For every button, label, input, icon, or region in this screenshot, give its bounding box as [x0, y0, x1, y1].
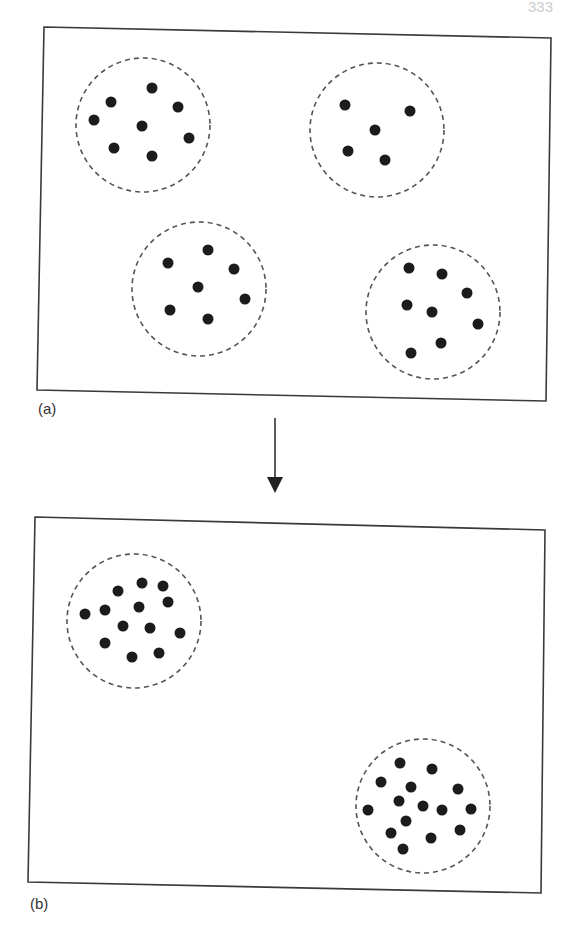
cluster [67, 554, 201, 688]
data-point [147, 151, 158, 162]
cluster [310, 63, 444, 197]
data-point [154, 648, 165, 659]
data-point [466, 804, 477, 815]
data-point [363, 805, 374, 816]
data-point [89, 115, 100, 126]
data-point [173, 102, 184, 113]
data-point [113, 586, 124, 597]
data-point [436, 338, 447, 349]
data-point [437, 805, 448, 816]
panel-b-clusters [67, 554, 490, 873]
cluster [132, 222, 266, 356]
data-point [165, 305, 176, 316]
data-point [380, 155, 391, 166]
data-point [406, 782, 417, 793]
data-point [184, 133, 195, 144]
cluster [356, 739, 490, 873]
data-point [395, 758, 406, 769]
data-point [203, 245, 214, 256]
panel-a-label: (a) [38, 400, 56, 417]
panel-a-frame [37, 27, 551, 401]
cluster-boundary [67, 554, 201, 688]
data-point [163, 597, 174, 608]
data-point [401, 816, 412, 827]
data-point [193, 282, 204, 293]
data-point [394, 796, 405, 807]
data-point [402, 300, 413, 311]
data-point [427, 307, 438, 318]
data-point [398, 844, 409, 855]
cluster-merge-diagram: 333 (a) (b) [0, 0, 575, 937]
data-point [229, 264, 240, 275]
data-point [437, 269, 448, 280]
panel-a-clusters [76, 58, 500, 379]
data-point [127, 652, 138, 663]
page-number: 333 [528, 0, 553, 15]
data-point [427, 764, 438, 775]
data-point [473, 319, 484, 330]
data-point [386, 828, 397, 839]
data-point [137, 121, 148, 132]
panel-b-frame [28, 517, 545, 893]
panel-b-label: (b) [30, 895, 48, 912]
data-point [455, 825, 466, 836]
data-point [453, 784, 464, 795]
data-point [203, 314, 214, 325]
cluster [76, 58, 210, 192]
data-point [343, 146, 354, 157]
data-point [106, 97, 117, 108]
data-point [145, 623, 156, 634]
data-point [426, 833, 437, 844]
down-arrow-icon [267, 418, 283, 493]
data-point [370, 125, 381, 136]
data-point [118, 621, 129, 632]
data-point [404, 263, 415, 274]
data-point [109, 143, 120, 154]
panel-b: (b) [28, 517, 545, 912]
panel-a: (a) [37, 27, 551, 417]
data-point [100, 605, 111, 616]
arrow-head [267, 477, 283, 493]
data-point [175, 628, 186, 639]
data-point [137, 578, 148, 589]
data-point [147, 83, 158, 94]
data-point [376, 777, 387, 788]
data-point [163, 258, 174, 269]
data-point [80, 609, 91, 620]
data-point [418, 801, 429, 812]
data-point [405, 106, 416, 117]
data-point [100, 638, 111, 649]
cluster [366, 245, 500, 379]
data-point [462, 288, 473, 299]
data-point [134, 602, 145, 613]
data-point [240, 294, 251, 305]
data-point [406, 348, 417, 359]
data-point [158, 581, 169, 592]
data-point [340, 100, 351, 111]
